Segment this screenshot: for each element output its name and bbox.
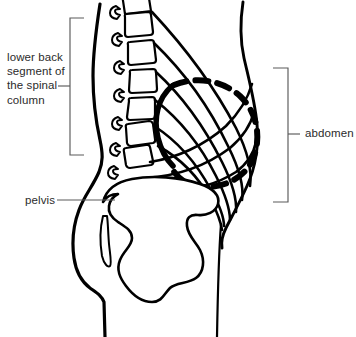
back-contour: [73, 4, 105, 337]
pelvis-bone: [103, 177, 218, 302]
spinous-process: [110, 143, 120, 156]
spinous-process: [114, 61, 124, 74]
abdomen-bracket: [273, 68, 288, 202]
spinous-processes: [108, 6, 124, 179]
label-abdomen: abdomen: [305, 126, 354, 140]
spinous-process: [112, 33, 122, 46]
vertebra-body: [129, 69, 157, 93]
anatomy-figure: lower back segment of the spinal column …: [0, 0, 356, 337]
vertebra-body: [127, 97, 155, 120]
sacrum-sliver: [101, 216, 111, 267]
groin-line: [217, 224, 221, 337]
vertebra-body: [128, 40, 156, 65]
vertebra-body: [124, 145, 154, 168]
spinous-process: [110, 6, 120, 19]
spinous-process: [112, 117, 122, 130]
vertebra-body: [125, 12, 153, 37]
label-pelvis: pelvis: [25, 193, 55, 207]
label-lower-back-segment: lower back segment of the spinal column: [7, 50, 65, 107]
spinous-process: [108, 166, 118, 179]
lower-back-bracket: [70, 18, 84, 155]
lumbar-vertebrae: [122, 0, 157, 168]
spinous-process: [114, 89, 124, 102]
vertebra-body: [126, 121, 156, 146]
